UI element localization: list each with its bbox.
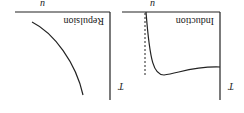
repulsion-title: Repulsion xyxy=(63,16,104,27)
induction-y-label: u xyxy=(150,0,155,10)
potential-curves-svg: Repulsion T u Induction T u xyxy=(0,0,244,113)
diagram: Repulsion T u Induction T u xyxy=(0,0,244,113)
induction-x-label: T xyxy=(227,81,234,92)
repulsion-curve xyxy=(32,22,83,95)
panel-repulsion: Repulsion T u xyxy=(15,0,124,100)
induction-title: Induction xyxy=(176,16,214,27)
repulsion-x-label: T xyxy=(117,81,124,92)
panel-induction: Induction T u xyxy=(122,0,234,100)
repulsion-y-label: u xyxy=(40,0,45,10)
